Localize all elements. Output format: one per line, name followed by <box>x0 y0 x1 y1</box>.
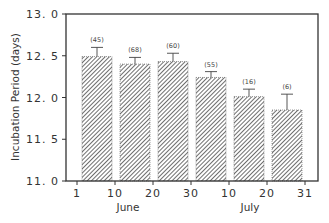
bar <box>272 110 302 181</box>
bars-group <box>82 57 302 181</box>
x-axis-ticks: 1102030102031 <box>73 181 313 200</box>
sample-size-label: (68) <box>128 46 141 54</box>
bar <box>120 64 150 181</box>
sample-size-label: (16) <box>242 78 255 86</box>
sample-size-label: (6) <box>282 83 291 91</box>
bar <box>82 57 112 181</box>
y-tick-label: 12. 5 <box>26 50 59 63</box>
x-tick-label: 31 <box>297 187 313 200</box>
y-axis-title: Incubation Period (days) <box>9 33 21 161</box>
x-tick-label: 10 <box>107 187 123 200</box>
y-tick-label: 11. 0 <box>26 175 59 188</box>
y-tick-label: 12. 0 <box>26 92 59 105</box>
sample-size-label: (55) <box>204 61 217 69</box>
x-tick-label: 20 <box>259 187 275 200</box>
x-tick-label: 10 <box>221 187 237 200</box>
bar <box>158 62 188 181</box>
x-tick-label: 30 <box>183 187 199 200</box>
month-label-july: July <box>240 201 260 213</box>
bar-chart: (45)(68)(60)(55)(16)(6) 11. 011. 512. 01… <box>0 0 329 223</box>
sample-size-label: (60) <box>166 42 179 50</box>
sample-size-label: (45) <box>90 36 103 44</box>
y-axis-ticks: 11. 011. 512. 012. 513. 0 <box>26 8 66 188</box>
month-label-june: June <box>116 201 140 213</box>
y-tick-label: 13. 0 <box>26 8 59 21</box>
x-tick-label: 20 <box>145 187 161 200</box>
bar <box>196 77 226 181</box>
y-tick-label: 11. 5 <box>26 133 59 146</box>
x-tick-label: 1 <box>73 187 81 200</box>
bar <box>234 97 264 181</box>
